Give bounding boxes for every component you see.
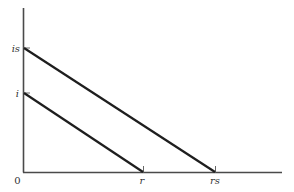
x-label-r: r [140,175,146,186]
x-label-rs: rs [210,175,220,186]
y-label-is: is [12,43,20,54]
budget-line-diagram: is i 0 r rs [0,0,294,192]
origin-label: 0 [14,175,20,186]
line-i-to-r [24,93,143,172]
y-label-i: i [16,88,19,99]
line-is-to-rs [24,48,215,172]
